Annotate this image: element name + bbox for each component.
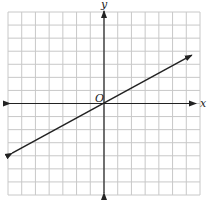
x-axis-label: x [200,97,206,110]
origin-label: O [95,92,104,105]
y-axis-label: y [101,0,107,11]
coordinate-plane [0,0,210,207]
